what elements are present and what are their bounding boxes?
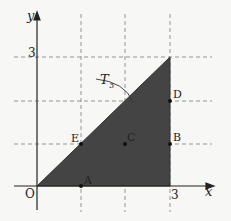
x-axis-label: x (205, 184, 213, 199)
point-c-label: C (127, 131, 135, 144)
origin-label: O (25, 187, 35, 201)
diagram-canvas: y x O 3 3 T 3 A B C D E (0, 0, 231, 221)
point-d (168, 99, 172, 103)
point-a-label: A (83, 174, 93, 187)
point-e-label: E (71, 132, 79, 145)
point-a (79, 184, 83, 188)
y-axis-label: y (26, 8, 35, 23)
x-tick-3: 3 (171, 188, 179, 202)
point-d-label: D (173, 88, 182, 101)
point-b-label: B (173, 131, 181, 144)
region-label-subscript: 3 (109, 81, 114, 90)
point-e (79, 142, 83, 146)
y-tick-3: 3 (28, 46, 36, 60)
y-axis-arrow-icon (34, 12, 40, 20)
region-label: T 3 (100, 72, 114, 90)
point-b (168, 142, 172, 146)
